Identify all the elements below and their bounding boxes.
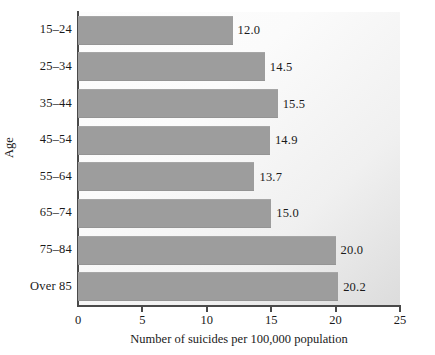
x-tick-mark: [399, 305, 401, 312]
y-category-label: 25–34: [2, 59, 72, 74]
x-tick-mark: [141, 305, 143, 312]
y-axis-title: Age: [2, 137, 17, 158]
bar: [78, 162, 254, 191]
y-category-label: 35–44: [2, 96, 72, 111]
x-tick-label: 20: [329, 313, 342, 328]
y-category-label: 65–74: [2, 205, 72, 220]
y-category-labels: 15–2425–3435–4445–5455–6465–7475–84Over …: [0, 12, 72, 305]
bar-row: 14.5: [78, 52, 400, 81]
y-category-label: 75–84: [2, 242, 72, 257]
y-category-label: 55–64: [2, 169, 72, 184]
bar: [78, 16, 233, 45]
bar: [78, 89, 278, 118]
bar-row: 15.5: [78, 89, 400, 118]
x-tick-mark: [206, 305, 208, 312]
bar-value-label: 15.5: [283, 96, 306, 111]
x-tick-mark: [335, 305, 337, 312]
x-tick-label: 5: [139, 313, 145, 328]
y-category-label: Over 85: [2, 279, 72, 294]
bar-value-label: 20.0: [341, 243, 364, 258]
bar: [78, 236, 336, 265]
bar-row: 14.9: [78, 126, 400, 155]
bar-value-label: 14.5: [270, 59, 293, 74]
bar: [78, 126, 270, 155]
bar: [78, 52, 265, 81]
bar-value-label: 14.9: [275, 133, 298, 148]
x-axis-title: Number of suicides per 100,000 populatio…: [78, 332, 400, 347]
bar-row: 12.0: [78, 16, 400, 45]
x-axis-line: [77, 305, 401, 307]
y-category-label: 15–24: [2, 22, 72, 37]
bar-row: 13.7: [78, 162, 400, 191]
bar-row: 15.0: [78, 199, 400, 228]
bar-row: 20.2: [78, 272, 400, 301]
bar-chart-figure: 12.014.515.514.913.715.020.020.2 15–2425…: [0, 0, 435, 355]
x-tick-label: 15: [265, 313, 278, 328]
x-tick-label: 25: [394, 313, 407, 328]
bar-value-label: 12.0: [238, 23, 261, 38]
x-tick-label: 0: [75, 313, 81, 328]
x-tick-label: 10: [201, 313, 214, 328]
bar: [78, 199, 271, 228]
bar-value-label: 13.7: [259, 169, 282, 184]
bar-value-label: 20.2: [343, 279, 366, 294]
bar-value-label: 15.0: [276, 206, 299, 221]
x-tick-mark: [270, 305, 272, 312]
bar-row: 20.0: [78, 236, 400, 265]
bar: [78, 272, 338, 301]
